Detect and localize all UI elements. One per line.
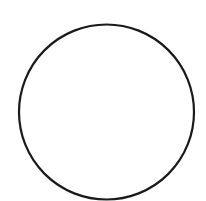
diagram-svg	[0, 0, 206, 201]
circle-shape	[19, 25, 194, 200]
diagram-canvas	[0, 0, 206, 201]
